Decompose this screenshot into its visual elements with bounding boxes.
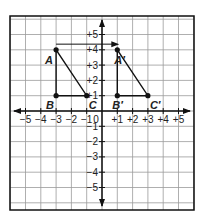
y-tick-label: +2 — [87, 75, 99, 86]
y-tick-label: −3 — [87, 151, 99, 162]
y-tick-label: −4 — [87, 167, 99, 178]
y-tick-label: −5 — [87, 182, 99, 193]
vertex-label: B′ — [112, 99, 124, 111]
y-tick-label: +5 — [87, 29, 99, 40]
x-tick-label: +2 — [127, 114, 139, 125]
vertex-point — [54, 93, 59, 98]
y-tick-label: +4 — [87, 44, 99, 55]
vertex-label: B — [46, 99, 54, 111]
x-tick-label: +3 — [142, 114, 154, 125]
vertex-point — [115, 93, 120, 98]
x-tick-label: +1 — [112, 114, 124, 125]
x-tick-label: +5 — [173, 114, 185, 125]
y-tick-label: −2 — [87, 136, 99, 147]
x-tick-label: −5 — [20, 114, 32, 125]
vertex-label: C — [89, 99, 98, 111]
vertex-point — [54, 47, 59, 52]
y-tick-label: −1 — [87, 121, 99, 132]
vertex-label: A — [44, 54, 53, 66]
vertex-label: A′ — [113, 54, 126, 66]
coordinate-plane: −5−4−3−2−10+1+2+3+4+5+5+4+3+2+1−1−2−3−4−… — [0, 0, 200, 213]
y-axis-up-arrow-icon — [99, 19, 105, 27]
translation-arrowhead-icon — [111, 41, 119, 47]
x-tick-label: −4 — [35, 114, 47, 125]
vertex-point — [84, 93, 89, 98]
vertex-point — [115, 47, 120, 52]
x-tick-label: −2 — [66, 114, 78, 125]
y-tick-label: +3 — [87, 60, 99, 71]
x-tick-label: +4 — [157, 114, 169, 125]
x-tick-label: −3 — [50, 114, 62, 125]
vertex-point — [145, 93, 150, 98]
vertex-label: C′ — [150, 99, 162, 111]
